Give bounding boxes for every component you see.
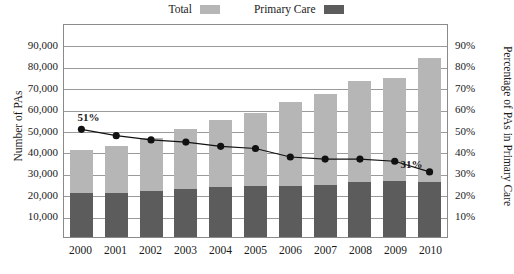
- bar-primary-care-2001: [105, 193, 128, 237]
- bar-primary-care-2004: [209, 187, 232, 237]
- bar-group-2005: [244, 25, 267, 237]
- bar-group-2001: [105, 25, 128, 237]
- bar-primary-care-2006: [279, 186, 302, 237]
- y-axis-right-tick: 50%: [455, 126, 503, 137]
- bar-group-2000: [70, 25, 93, 237]
- callout-51%: 51%: [78, 111, 100, 123]
- primary-care-swatch-icon: [324, 5, 344, 14]
- bar-group-2009: [383, 25, 406, 237]
- y-axis-left-tick: 40,000: [0, 147, 58, 158]
- y-axis-left-tick: 30,000: [0, 168, 58, 179]
- bar-group-2010: [418, 25, 441, 237]
- bar-primary-care-2008: [348, 182, 371, 237]
- y-axis-left-tick: 50,000: [0, 126, 58, 137]
- total-swatch-icon: [200, 5, 220, 14]
- bar-group-2006: [279, 25, 302, 237]
- y-axis-left-tick: 10,000: [0, 211, 58, 222]
- legend-entry-primary-care: Primary Care: [254, 3, 344, 15]
- y-axis-right-tick: 30%: [455, 168, 503, 179]
- bar-group-2002: [140, 25, 163, 237]
- bar-group-2007: [314, 25, 337, 237]
- bar-primary-care-2000: [70, 193, 93, 237]
- bar-total-2000: [70, 150, 93, 193]
- legend-label-primary-care: Primary Care: [254, 3, 316, 15]
- y-axis-right-tick: 20%: [455, 190, 503, 201]
- y-axis-right-tick: 80%: [455, 61, 503, 72]
- bar-group-2008: [348, 25, 371, 237]
- bar-total-2006: [279, 102, 302, 185]
- bar-total-2005: [244, 113, 267, 186]
- bar-primary-care-2005: [244, 186, 267, 237]
- bar-total-2008: [348, 81, 371, 183]
- bar-primary-care-2009: [383, 181, 406, 237]
- bar-total-2001: [105, 146, 128, 193]
- y-axis-left-tick: 70,000: [0, 83, 58, 94]
- x-axis-tick-2010: 2010: [409, 244, 453, 256]
- bar-primary-care-2003: [174, 189, 197, 237]
- bar-group-2003: [174, 25, 197, 237]
- callout-31%: 31%: [401, 158, 423, 170]
- y-axis-right-tick: 70%: [455, 83, 503, 94]
- y-axis-left-tick: 80,000: [0, 61, 58, 72]
- bar-total-2004: [209, 120, 232, 186]
- y-axis-right-tick: 60%: [455, 104, 503, 115]
- y-axis-right-tick: 10%: [455, 211, 503, 222]
- bar-total-2007: [314, 94, 337, 185]
- y-axis-right-tick: 40%: [455, 147, 503, 158]
- bar-group-2004: [209, 25, 232, 237]
- y-axis-right-title: Percentage of PAs in Primary Care: [502, 26, 514, 226]
- y-axis-left-tick: 20,000: [0, 190, 58, 201]
- chart-legend: Total Primary Care: [0, 3, 512, 15]
- legend-entry-total: Total: [168, 3, 219, 15]
- bar-primary-care-2002: [140, 191, 163, 237]
- bar-total-2002: [140, 138, 163, 192]
- bar-primary-care-2010: [418, 182, 441, 237]
- bar-total-2003: [174, 129, 197, 189]
- y-axis-right-tick: 90%: [455, 40, 503, 51]
- chart-plot-area: [63, 24, 448, 238]
- legend-label-total: Total: [168, 3, 191, 15]
- y-axis-left-tick: 60,000: [0, 104, 58, 115]
- chart-bars: [64, 25, 447, 237]
- bar-primary-care-2007: [314, 185, 337, 237]
- y-axis-left-tick: 90,000: [0, 40, 58, 51]
